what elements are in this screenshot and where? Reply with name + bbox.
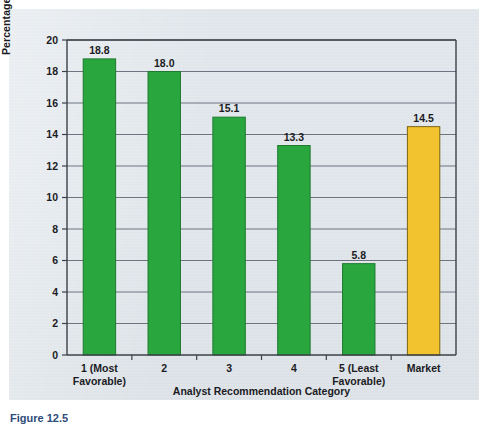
x-category-label: 5 (Least xyxy=(339,362,379,374)
x-category-label: 4 xyxy=(291,362,297,374)
y-tick-label: 0 xyxy=(52,349,58,361)
gridlines-group xyxy=(67,40,456,324)
y-tick-label: 20 xyxy=(46,34,58,46)
x-category-label: Market xyxy=(407,362,441,374)
bar xyxy=(148,72,180,356)
figure-container: Percentage Return Analyst Recommendation… xyxy=(0,0,485,426)
y-tick-label: 10 xyxy=(46,191,58,203)
y-tick-label: 8 xyxy=(52,223,58,235)
x-category-label: 1 (Most xyxy=(81,362,118,374)
y-tick-marks-group xyxy=(62,40,67,355)
bar xyxy=(83,59,115,355)
bar-chart-plot: 02468101214161820 1 (MostFavorable)2345 … xyxy=(0,0,485,426)
x-tick-marks-group xyxy=(132,355,391,360)
y-tick-label: 14 xyxy=(46,128,58,140)
x-category-label: Favorable) xyxy=(73,375,126,387)
figure-caption: Figure 12.5 xyxy=(10,412,68,426)
bar-value-labels-group: 18.818.015.113.35.814.5 xyxy=(89,44,434,261)
bar xyxy=(278,146,310,355)
x-category-labels-group: 1 (MostFavorable)2345 (LeastFavorable)Ma… xyxy=(73,362,441,387)
bar xyxy=(343,264,375,355)
bar-value-label: 14.5 xyxy=(413,112,434,124)
bar-value-label: 18.8 xyxy=(89,44,110,56)
bar xyxy=(407,127,439,355)
y-tick-label: 12 xyxy=(46,160,58,172)
bar-value-label: 13.3 xyxy=(284,131,305,143)
y-tick-label: 18 xyxy=(46,65,58,77)
y-tick-labels-group: 02468101214161820 xyxy=(46,34,58,361)
x-category-label: 3 xyxy=(226,362,232,374)
x-category-label: Favorable) xyxy=(332,375,385,387)
y-tick-label: 16 xyxy=(46,97,58,109)
bar xyxy=(213,117,245,355)
bar-value-label: 5.8 xyxy=(351,249,366,261)
x-category-label: 2 xyxy=(161,362,167,374)
bar-value-label: 15.1 xyxy=(219,102,240,114)
y-tick-label: 6 xyxy=(52,254,58,266)
bar-value-label: 18.0 xyxy=(154,57,175,69)
y-tick-label: 2 xyxy=(52,317,58,329)
y-tick-label: 4 xyxy=(52,286,58,298)
